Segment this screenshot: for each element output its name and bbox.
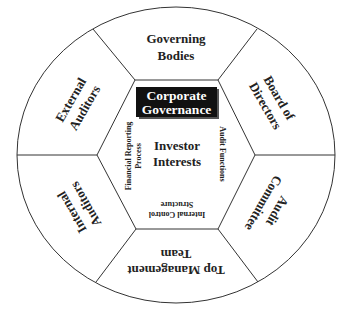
title-line1: Corporate xyxy=(147,88,207,103)
segment-governing-bodies: Governing Bodies xyxy=(146,31,206,63)
title-line2: Governance xyxy=(142,102,212,117)
spoke-upper-right xyxy=(218,29,257,80)
center-label: Investor Interests xyxy=(153,138,201,169)
segment-external-auditors: External Auditors xyxy=(52,75,103,133)
inner-label-audit-functions: Audit Functions xyxy=(218,126,227,181)
segment-label-line1: Top Management xyxy=(127,263,225,278)
inner-label-line1: Audit Functions xyxy=(218,126,227,181)
segment-audit-committee: Audit Committee xyxy=(242,173,300,242)
center-line1: Investor xyxy=(154,138,200,153)
inner-label-line1: Internal Control xyxy=(148,210,205,219)
spoke-upper-left xyxy=(93,29,135,80)
segment-internal-auditors: Internal Auditors xyxy=(53,179,104,237)
segment-label-line2: Bodies xyxy=(158,48,195,63)
inner-label-financial-reporting: Financial Reporting Process xyxy=(124,122,143,191)
corporate-governance-diagram: Governing Bodies Board of Directors Audi… xyxy=(0,0,352,321)
inner-label-internal-control: Internal Control Structure xyxy=(148,200,205,219)
segment-top-management-team: Top Management Team xyxy=(127,247,225,278)
inner-label-line1: Financial Reporting xyxy=(124,122,133,191)
inner-label-line2: Structure xyxy=(160,200,193,209)
inner-label-line2: Process xyxy=(134,143,143,169)
title-box: Corporate Governance xyxy=(136,87,219,119)
segment-label-line1: Governing xyxy=(146,31,206,46)
segment-board-of-directors: Board of Directors xyxy=(246,72,299,132)
segment-label-line2: Team xyxy=(161,247,192,262)
center-line2: Interests xyxy=(153,154,201,169)
